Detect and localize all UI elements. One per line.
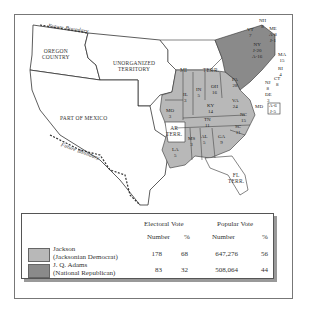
results-legend: Electoral Vote Popular Vote Number % Num… (21, 213, 274, 279)
adams-ev-number: 83 (142, 266, 162, 274)
jackson-ev-number: 178 (142, 250, 162, 258)
state-mo: MO3 (166, 108, 174, 120)
oregon-label: OREGON COUNTRY (42, 48, 70, 60)
adams-ev-percent: 32 (174, 266, 188, 274)
state-ma: MA15 (278, 52, 286, 64)
state-ky: KY14 (207, 103, 214, 115)
electoral-vote-header: Electoral Vote (144, 220, 184, 228)
ar-terr-label: AR TERR. (166, 125, 182, 137)
state-tn: TN11 (204, 117, 211, 129)
state-nj: NJ8 (265, 80, 271, 92)
adams-pv-number: 508,064 (202, 266, 238, 274)
state-sc: SC11 (235, 124, 241, 136)
pv-number-header: Number (212, 233, 235, 241)
state-me: MEA-8 J-1 (269, 26, 277, 44)
ev-number-header: Number (147, 233, 170, 241)
popular-vote-header: Popular Vote (217, 220, 253, 228)
pv-percent-header: % (262, 233, 268, 241)
state-oh: OH16 (211, 84, 218, 96)
jackson-swatch (28, 248, 50, 262)
state-vt: VT7 (247, 27, 254, 39)
mi-label: MI (180, 67, 187, 73)
ev-percent-header: % (184, 233, 190, 241)
jackson-label: Jackson(Jacksonian Democrat) (53, 245, 118, 261)
jackson-pv-number: 647,276 (202, 250, 238, 258)
state-al: AL5 (201, 134, 208, 146)
state-md-votes: A-6 J-5 (269, 103, 277, 115)
state-in: IN5 (196, 87, 201, 99)
jackson-ev-percent: 68 (174, 250, 188, 258)
state-la: LA5 (172, 147, 179, 159)
state-ga: GA9 (218, 134, 225, 146)
jackson-pv-percent: 56 (254, 250, 268, 258)
unorganized-label: UNORGANIZED TERRITORY (113, 60, 155, 72)
state-va: VA24 (232, 98, 239, 110)
mexico-label: PART OF MEXICO (60, 115, 107, 121)
fl-terr-label: FL TERR. (228, 172, 244, 184)
terr-label: TERR. (203, 67, 219, 73)
state-ny: NYJ-20 A-16 (252, 42, 262, 60)
state-md-label: MD (255, 104, 263, 110)
adams-pv-percent: 44 (254, 266, 268, 274)
state-nh: NH8 (259, 18, 266, 30)
state-nc: NC15 (240, 112, 247, 124)
adams-swatch (28, 264, 50, 278)
adams-label: J. Q. Adams(National Republican) (53, 261, 115, 277)
state-pa: PA28 (232, 77, 238, 89)
state-ct: CT8 (274, 76, 280, 88)
state-ms: MS3 (188, 136, 195, 148)
state-il: IL3 (183, 92, 188, 104)
